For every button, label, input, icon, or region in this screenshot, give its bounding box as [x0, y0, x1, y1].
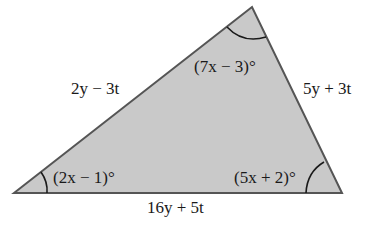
side-label-right: 5y + 3t: [303, 79, 351, 99]
angle-label-top: (7x − 3)°: [194, 57, 256, 77]
side-label-left: 2y − 3t: [71, 79, 119, 99]
triangle: [14, 7, 342, 193]
angle-label-bottom-right: (5x + 2)°: [234, 168, 296, 188]
angle-label-bottom-left: (2x − 1)°: [53, 168, 115, 188]
side-label-bottom: 16y + 5t: [147, 198, 204, 218]
